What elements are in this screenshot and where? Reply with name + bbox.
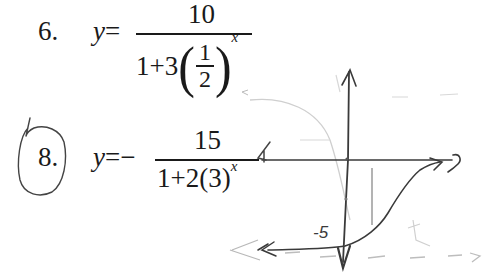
- y-intercept-label: -5: [313, 223, 329, 242]
- y-axis: [343, 72, 349, 262]
- hand-drawn-sketch: -5: [0, 0, 484, 277]
- faint-dashed-line-top: [392, 94, 458, 97]
- left-annotation-mark: [258, 142, 270, 162]
- origin-dot: [345, 157, 348, 160]
- faint-erased-mark: [300, 75, 340, 140]
- faint-left-arrow: [230, 240, 260, 260]
- curve-left-arrow-icon: [258, 242, 276, 256]
- faint-arrow-near-equation: [242, 90, 248, 95]
- faint-tick-mark: [408, 220, 430, 246]
- faint-dashed-asymptote-bottom: [285, 252, 480, 262]
- x-axis-arrow-icon: [448, 155, 460, 172]
- logistic-curve: [268, 162, 440, 250]
- y-axis-dot: [344, 197, 347, 200]
- circle-around-problem-8: [18, 118, 65, 195]
